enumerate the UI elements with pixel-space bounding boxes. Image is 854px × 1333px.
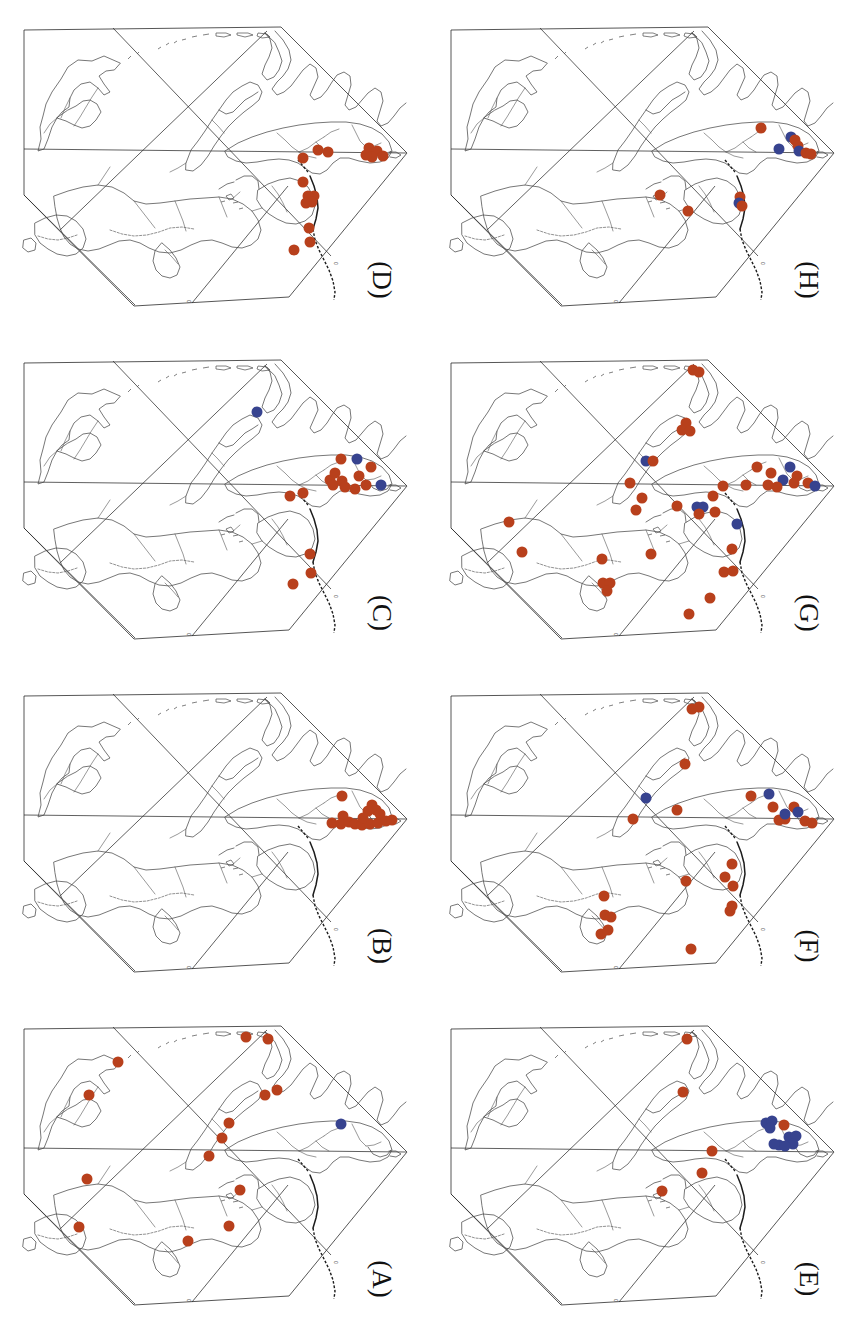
marker-red [350, 484, 361, 495]
coord-tick-left: 0 [186, 966, 192, 969]
marker-red [298, 153, 309, 164]
marker-blue [774, 144, 785, 155]
marker-red [756, 123, 767, 134]
marker-red [330, 468, 341, 479]
coord-tick-left: 0 [186, 1299, 192, 1302]
marker-red [517, 547, 528, 558]
marker-group [74, 1032, 347, 1247]
map-frame-group [451, 27, 834, 306]
marker-red [746, 791, 757, 802]
marker-red [597, 554, 608, 565]
map-panel-f: (F) 0 0 [427, 666, 854, 999]
marker-group [252, 407, 387, 590]
marker-red [298, 488, 309, 499]
marker-red [718, 481, 729, 492]
marker-blue [352, 454, 363, 465]
marker-red [313, 145, 324, 156]
marker-red [361, 150, 372, 161]
marker-red [224, 1118, 235, 1129]
coord-tick-left: 0 [186, 300, 192, 303]
marker-red [631, 505, 642, 516]
marker-blue [780, 1141, 791, 1152]
panel-label: (A) [352, 1249, 412, 1309]
marker-red [82, 1174, 93, 1185]
panel-label: (H) [779, 250, 839, 310]
graticule-group [24, 361, 406, 638]
marker-blue [765, 1123, 776, 1134]
marker-red [241, 1032, 252, 1043]
coord-tick-left: 0 [186, 633, 192, 636]
marker-red [628, 814, 639, 825]
coord-tick-right: 0 [760, 262, 766, 265]
marker-red [602, 586, 613, 597]
map-frame-group [451, 1026, 834, 1305]
marker-red [682, 1034, 693, 1045]
coastline-group [450, 697, 833, 966]
marker-red [705, 593, 716, 604]
marker-red [741, 480, 752, 491]
marker-red [686, 944, 697, 955]
marker-red [657, 1186, 668, 1197]
marker-red [387, 815, 398, 826]
marker-blue [732, 519, 743, 530]
map-panel-b: (B) 0 0 [0, 666, 427, 999]
marker-blue [793, 807, 804, 818]
marker-red [204, 1151, 215, 1162]
marker-red [655, 190, 666, 201]
marker-red [305, 549, 316, 560]
marker-red [606, 912, 617, 923]
marker-red [728, 566, 739, 577]
marker-blue [764, 789, 775, 800]
marker-red [806, 149, 817, 160]
panel-label: (C) [352, 583, 412, 643]
coord-tick-left: 0 [613, 300, 619, 303]
marker-red [708, 491, 719, 502]
coord-tick-right: 0 [760, 595, 766, 598]
graticule-group [24, 1027, 406, 1304]
coord-tick-right: 0 [333, 928, 339, 931]
map-frame-group [451, 693, 834, 972]
map-frame-group [24, 360, 407, 639]
marker-red [727, 901, 738, 912]
panel-label: (B) [352, 916, 412, 976]
marker-red [710, 507, 721, 518]
marker-group [655, 123, 817, 217]
coord-tick-left: 0 [613, 966, 619, 969]
panel-label: (D) [352, 250, 412, 310]
figure-panel-grid: (D) 0 0 [0, 0, 854, 1333]
marker-red [260, 1090, 271, 1101]
marker-blue [785, 462, 796, 473]
panel-label: (G) [779, 583, 839, 643]
map-frame-group [24, 693, 407, 972]
marker-red [752, 462, 763, 473]
marker-red [707, 1146, 718, 1157]
marker-red [807, 818, 818, 829]
marker-red [720, 872, 731, 883]
map-frame-group [24, 1026, 407, 1305]
map-panel-c: (C) 0 0 [0, 333, 427, 666]
marker-red [603, 925, 614, 936]
marker-red [599, 891, 610, 902]
coastline-group [23, 31, 406, 300]
marker-red [681, 876, 692, 887]
map-frame-group [24, 27, 407, 306]
coord-tick-right: 0 [333, 595, 339, 598]
marker-red [727, 544, 738, 555]
marker-red [305, 237, 316, 248]
marker-red [235, 1185, 246, 1196]
marker-red [737, 201, 748, 212]
coastline-group [450, 1030, 833, 1299]
marker-red [779, 1120, 790, 1131]
marker-red [298, 177, 309, 188]
marker-red [728, 881, 739, 892]
marker-blue [810, 481, 821, 492]
marker-blue [252, 407, 263, 418]
marker-red [323, 147, 334, 158]
map-panel-h: (H) 0 0 [427, 0, 854, 333]
marker-red [285, 491, 296, 502]
panel-label: (F) [779, 916, 839, 976]
marker-red [648, 456, 659, 467]
marker-red [683, 206, 694, 217]
marker-blue [376, 480, 387, 491]
map-panel-d: (D) 0 0 [0, 0, 427, 333]
